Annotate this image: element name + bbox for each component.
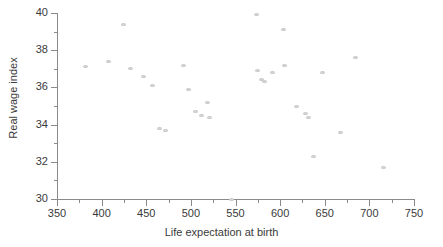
x-tick-major bbox=[146, 200, 147, 206]
data-point bbox=[186, 88, 191, 91]
x-tick-minor bbox=[258, 200, 259, 203]
data-point bbox=[229, 198, 234, 201]
data-point bbox=[163, 129, 168, 132]
data-point bbox=[311, 155, 316, 158]
data-point bbox=[255, 69, 260, 72]
x-tick-label: 450 bbox=[126, 208, 166, 219]
x-tick-major bbox=[325, 200, 326, 206]
x-tick-label: 550 bbox=[216, 208, 256, 219]
data-point bbox=[303, 112, 308, 115]
x-tick-major bbox=[414, 200, 415, 206]
data-point bbox=[150, 84, 155, 87]
x-tick-major bbox=[57, 200, 58, 206]
data-point bbox=[353, 56, 358, 59]
data-point bbox=[106, 60, 111, 63]
x-tick-minor bbox=[347, 200, 348, 203]
data-point bbox=[157, 127, 162, 130]
x-tick-minor bbox=[302, 200, 303, 203]
data-point bbox=[281, 28, 286, 31]
x-tick-major bbox=[369, 200, 370, 206]
data-point bbox=[254, 13, 259, 16]
data-point bbox=[282, 64, 287, 67]
x-tick-label: 500 bbox=[171, 208, 211, 219]
x-tick-minor bbox=[169, 200, 170, 203]
data-point bbox=[338, 131, 343, 134]
data-point bbox=[193, 110, 198, 113]
data-point bbox=[121, 23, 126, 26]
x-tick-major bbox=[102, 200, 103, 206]
data-point bbox=[320, 71, 325, 74]
y-axis-title: Real wage index bbox=[7, 33, 19, 163]
x-tick-minor bbox=[79, 200, 80, 203]
x-tick-label: 650 bbox=[305, 208, 345, 219]
plot-area bbox=[57, 13, 414, 199]
data-point bbox=[294, 105, 299, 108]
data-point bbox=[199, 114, 204, 117]
x-tick-label: 350 bbox=[37, 208, 77, 219]
x-tick-label: 700 bbox=[349, 208, 389, 219]
x-tick-minor bbox=[124, 200, 125, 203]
data-point bbox=[306, 116, 311, 119]
x-tick-label: 600 bbox=[260, 208, 300, 219]
data-point bbox=[205, 101, 210, 104]
data-point bbox=[270, 71, 275, 74]
x-tick-minor bbox=[213, 200, 214, 203]
x-axis-title: Life expectation at birth bbox=[0, 226, 443, 238]
x-tick-label: 750 bbox=[394, 208, 434, 219]
data-point bbox=[207, 116, 212, 119]
x-tick-major bbox=[236, 200, 237, 206]
scatter-chart: 303234363840350400450500550600650700750 … bbox=[0, 0, 443, 247]
x-tick-major bbox=[280, 200, 281, 206]
data-point bbox=[141, 75, 146, 78]
y-tick-label: 30 bbox=[8, 193, 48, 204]
data-point bbox=[83, 65, 88, 68]
data-point bbox=[262, 80, 267, 83]
y-tick-label: 40 bbox=[8, 7, 48, 18]
data-point bbox=[381, 166, 386, 169]
data-point bbox=[128, 67, 133, 70]
x-tick-minor bbox=[392, 200, 393, 203]
data-point bbox=[181, 64, 186, 67]
x-tick-label: 400 bbox=[82, 208, 122, 219]
x-tick-major bbox=[191, 200, 192, 206]
